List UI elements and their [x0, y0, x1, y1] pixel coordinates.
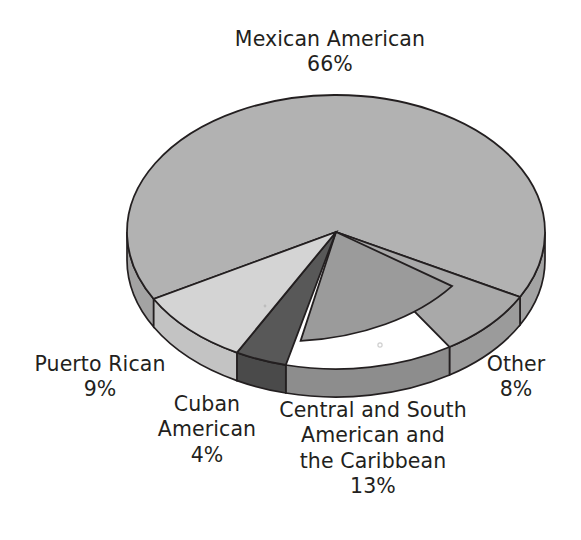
pie-chart: Mexican American 66% Puerto Rican 9% Cub…: [0, 0, 581, 540]
label-central-line1: Central and South: [279, 398, 467, 422]
label-mexican-american: Mexican American 66%: [190, 27, 470, 78]
pie-top-faces: [127, 95, 545, 365]
label-central-line3: the Caribbean: [258, 449, 488, 474]
label-central-value: 13%: [258, 474, 488, 499]
label-other-name: Other: [487, 352, 546, 376]
label-central-south-american-caribbean: Central and South American and the Carib…: [258, 398, 488, 500]
label-puerto-rican-name: Puerto Rican: [34, 352, 165, 376]
label-cuban-american-line1: Cuban: [174, 392, 240, 416]
label-mexican-american-name: Mexican American: [235, 27, 425, 51]
label-other: Other 8%: [452, 352, 580, 403]
label-mexican-american-value: 66%: [190, 52, 470, 77]
slice-side-central-and-south-american-and-the-caribbean: [286, 347, 450, 397]
label-other-value: 8%: [452, 377, 580, 402]
label-central-line2: American and: [258, 423, 488, 448]
